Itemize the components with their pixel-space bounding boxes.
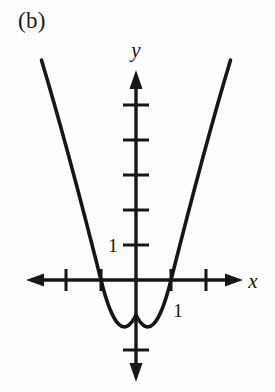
x-tick-label-1: 1 — [173, 300, 183, 321]
y-tick-label-1: 1 — [108, 235, 118, 256]
x-axis-label: x — [247, 269, 258, 293]
parabola-figure: (b) x y 1 1 — [0, 0, 275, 392]
y-axis-bottom-arrowhead — [130, 363, 143, 382]
x-axis-right-arrowhead — [225, 274, 243, 287]
plot-canvas: x y 1 1 — [0, 0, 275, 392]
y-axis-top-arrowhead — [130, 70, 143, 89]
y-axis-label: y — [129, 38, 141, 62]
x-axis-left-arrowhead — [26, 274, 44, 287]
